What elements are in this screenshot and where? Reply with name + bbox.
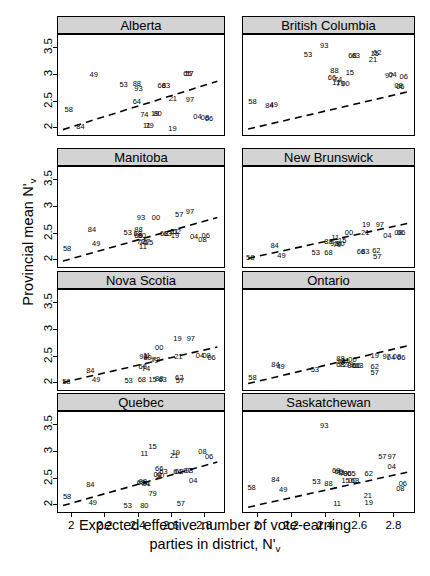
data-point-label: 84 bbox=[271, 476, 279, 484]
data-point-label: 58 bbox=[248, 98, 256, 106]
panel-title-text: Alberta bbox=[120, 19, 161, 32]
data-point-label: 80 bbox=[336, 241, 344, 249]
data-point-label: 08 bbox=[396, 486, 404, 494]
data-point-label: 11 bbox=[333, 501, 341, 509]
panel-title-text: Ontario bbox=[307, 274, 350, 287]
data-point-label: 57 bbox=[373, 254, 381, 262]
y-axis-title-subscript: v bbox=[27, 178, 38, 183]
data-point-label: 06 bbox=[207, 354, 215, 362]
data-point-label: 49 bbox=[277, 252, 285, 260]
plot-area: 5884495368158863625793118079726674001997… bbox=[57, 289, 225, 391]
panel-strip-label: Alberta bbox=[57, 16, 225, 34]
data-point-label: 15 bbox=[346, 69, 354, 77]
panel-saskatchewan: Saskatchewan5884499353886866117990156500… bbox=[242, 393, 415, 513]
data-point-label: 93 bbox=[134, 86, 142, 94]
data-point-label: 04 bbox=[190, 233, 198, 241]
panel-title-text: Nova Scotia bbox=[106, 274, 176, 287]
data-point-label: 21 bbox=[361, 229, 369, 237]
reference-line bbox=[243, 290, 414, 390]
plot-area: 5884499353886866117990156500636257970406… bbox=[242, 411, 415, 513]
y-axis-tick-label: 3 bbox=[42, 58, 54, 88]
data-point-label: 53 bbox=[124, 502, 132, 510]
data-point-label: 04 bbox=[383, 232, 391, 240]
data-point-label: 91 bbox=[143, 480, 151, 488]
data-point-label: 11 bbox=[139, 243, 147, 251]
data-point-label: 74 bbox=[142, 365, 150, 373]
panel-new-brunswick: New Brunswick588449536888111500937980199… bbox=[242, 148, 415, 268]
panel-manitoba: Manitoba58844953930057978868668068632162… bbox=[57, 148, 225, 268]
data-point-label: 53 bbox=[311, 366, 319, 374]
y-axis-tick-label: 2.5 bbox=[42, 340, 54, 370]
figure-canvas: Provincial mean N'v Alberta5849845388936… bbox=[0, 0, 430, 576]
y-axis-tick-label: 2 bbox=[42, 488, 54, 518]
data-point-label: 11 bbox=[140, 451, 148, 459]
data-point-label: 49 bbox=[92, 240, 100, 248]
data-point-label: 93 bbox=[137, 214, 145, 222]
data-point-label: 04 bbox=[388, 71, 396, 79]
plot-area: 5884499353686321156288156611747900970406… bbox=[242, 34, 415, 136]
panel-title-text: New Brunswick bbox=[284, 151, 373, 164]
data-point-label: 19 bbox=[168, 125, 176, 133]
data-point-label: 68 bbox=[324, 249, 332, 257]
data-point-label: 08 bbox=[198, 236, 206, 244]
panel-title-text: Saskatchewan bbox=[286, 396, 371, 409]
panel-alberta: Alberta584984538893686365572197647419801… bbox=[57, 16, 225, 136]
data-point-label: 84 bbox=[76, 124, 84, 132]
y-axis-title-text: Provincial mean N' bbox=[20, 183, 36, 305]
data-point-label: 57 bbox=[176, 378, 184, 386]
panel-ontario: Ontario588449538893110068727980666319625… bbox=[242, 271, 415, 391]
y-axis-tick-label: 3.5 bbox=[42, 163, 54, 193]
data-point-label: 06 bbox=[397, 355, 405, 363]
x-axis-title-line2-text: parties in district, N' bbox=[150, 536, 276, 552]
data-point-label: 00 bbox=[345, 229, 353, 237]
data-point-label: 00 bbox=[155, 344, 163, 352]
data-point-label: 04 bbox=[388, 463, 396, 471]
y-axis-tick-label: 3 bbox=[42, 313, 54, 343]
data-point-label: 97 bbox=[388, 453, 396, 461]
data-point-label: 58 bbox=[63, 245, 71, 253]
data-point-label: 21 bbox=[174, 353, 182, 361]
data-point-label: 57 bbox=[370, 369, 378, 377]
data-point-label: 80 bbox=[140, 502, 148, 510]
data-point-label: 53 bbox=[119, 81, 127, 89]
data-point-label: 63 bbox=[361, 249, 369, 257]
panel-quebec: Quebec5884495380571511211908066663626497… bbox=[57, 393, 225, 513]
y-axis-tick-label: 2.5 bbox=[42, 462, 54, 492]
data-point-label: 57 bbox=[175, 211, 183, 219]
data-point-label: 06 bbox=[205, 453, 213, 461]
data-point-label: 90 bbox=[156, 472, 164, 480]
data-point-label: 53 bbox=[124, 229, 132, 237]
data-point-label: 57 bbox=[185, 70, 193, 78]
x-axis-title-line2: parties in district, N'v bbox=[0, 535, 430, 555]
data-point-label: 63 bbox=[351, 478, 359, 486]
panel-strip-label: Manitoba bbox=[57, 148, 225, 166]
data-point-label: 00 bbox=[152, 214, 160, 222]
data-point-label: 15 bbox=[148, 443, 156, 451]
y-axis-tick-label: 2 bbox=[42, 366, 54, 396]
plot-area: 5884495388931100687279806663196257970408… bbox=[242, 289, 415, 391]
data-point-label: 64 bbox=[173, 468, 181, 476]
data-point-label: 49 bbox=[90, 72, 98, 80]
data-point-label: 79 bbox=[145, 123, 153, 131]
y-axis-tick-label: 3.5 bbox=[42, 31, 54, 61]
data-point-label: 49 bbox=[92, 376, 100, 384]
data-point-label: 84 bbox=[270, 242, 278, 250]
data-point-label: 19 bbox=[365, 499, 373, 507]
data-point-label: 19 bbox=[171, 232, 179, 240]
data-point-label: 19 bbox=[172, 450, 180, 458]
data-point-label: 49 bbox=[276, 363, 284, 371]
data-point-label: 97 bbox=[187, 336, 195, 344]
plot-area: 5884495368881115009379801997216863625704… bbox=[242, 166, 415, 268]
data-point-label: 97 bbox=[186, 208, 194, 216]
y-axis-tick-label: 2.5 bbox=[42, 217, 54, 247]
y-axis-tick-label: 3.5 bbox=[42, 286, 54, 316]
data-point-label: 63 bbox=[352, 52, 360, 60]
data-point-label: 97 bbox=[376, 221, 384, 229]
data-point-label: 84 bbox=[86, 367, 94, 375]
data-point-label: 49 bbox=[89, 499, 97, 507]
y-axis-tick-label: 3 bbox=[42, 190, 54, 220]
panel-title-text: British Columbia bbox=[281, 19, 376, 32]
data-point-label: 06 bbox=[397, 229, 405, 237]
data-point-label: 49 bbox=[279, 487, 287, 495]
data-point-label: 00 bbox=[341, 81, 349, 89]
